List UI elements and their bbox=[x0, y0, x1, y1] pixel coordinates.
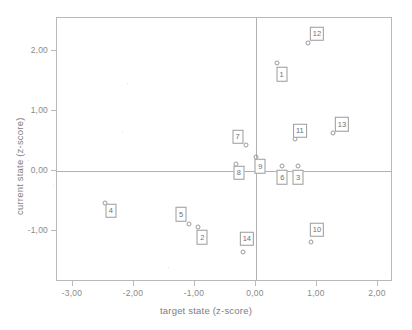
x-tick-mark bbox=[194, 281, 195, 286]
x-tick-mark bbox=[255, 281, 256, 286]
data-point-marker[interactable] bbox=[296, 164, 301, 169]
image-speck bbox=[28, 160, 29, 161]
scatter-chart: 1234567891011121314 -3,00-2,00-1,000,001… bbox=[0, 0, 412, 330]
zero-line-vertical bbox=[256, 18, 257, 280]
y-tick-mark bbox=[51, 50, 56, 51]
y-tick-label: 2,00 bbox=[20, 45, 48, 55]
data-point-marker[interactable] bbox=[308, 239, 313, 244]
data-point-label[interactable]: 2 bbox=[197, 230, 208, 245]
image-speck bbox=[127, 83, 128, 84]
data-point-label[interactable]: 13 bbox=[335, 117, 349, 132]
data-point-marker[interactable] bbox=[280, 164, 285, 169]
image-speck bbox=[53, 185, 54, 186]
data-point-label[interactable]: 3 bbox=[293, 170, 304, 185]
x-tick-label: 1,00 bbox=[307, 288, 324, 298]
zero-line-horizontal bbox=[57, 171, 391, 172]
x-tick-mark bbox=[72, 281, 73, 286]
x-tick-mark bbox=[377, 281, 378, 286]
data-point-label[interactable]: 5 bbox=[175, 207, 186, 222]
data-point-label[interactable]: 1 bbox=[276, 67, 287, 82]
data-point-marker[interactable] bbox=[196, 224, 201, 229]
y-axis-title: current state (z-score) bbox=[14, 117, 25, 215]
x-tick-label: 2,00 bbox=[368, 288, 385, 298]
y-tick-mark bbox=[51, 230, 56, 231]
x-tick-mark bbox=[133, 281, 134, 286]
x-axis-title: target state (z-score) bbox=[0, 305, 412, 316]
data-point-label[interactable]: 4 bbox=[105, 203, 116, 218]
data-point-marker[interactable] bbox=[305, 41, 310, 46]
y-tick-mark bbox=[51, 110, 56, 111]
x-tick-label: -2,00 bbox=[123, 288, 143, 298]
y-tick-label: 1,00 bbox=[20, 105, 48, 115]
x-tick-label: -1,00 bbox=[184, 288, 204, 298]
y-tick-mark bbox=[51, 170, 56, 171]
data-point-marker[interactable] bbox=[241, 250, 246, 255]
x-tick-mark bbox=[316, 281, 317, 286]
data-point-label[interactable]: 8 bbox=[233, 166, 244, 181]
x-tick-label: 0,00 bbox=[246, 288, 263, 298]
data-point-marker[interactable] bbox=[330, 131, 335, 136]
image-speck bbox=[122, 132, 123, 133]
data-point-label[interactable]: 14 bbox=[240, 232, 254, 247]
data-point-label[interactable]: 10 bbox=[310, 223, 324, 238]
data-point-marker[interactable] bbox=[186, 221, 191, 226]
data-point-marker[interactable] bbox=[244, 143, 249, 148]
data-point-label[interactable]: 12 bbox=[310, 26, 324, 41]
y-tick-label: -1,00 bbox=[20, 225, 48, 235]
data-point-label[interactable]: 7 bbox=[232, 130, 243, 145]
data-point-label[interactable]: 6 bbox=[277, 170, 288, 185]
plot-area: 1234567891011121314 bbox=[56, 17, 392, 281]
data-point-label[interactable]: 11 bbox=[293, 124, 307, 139]
image-speck bbox=[385, 273, 386, 274]
data-point-marker[interactable] bbox=[274, 61, 279, 66]
data-point-label[interactable]: 9 bbox=[255, 159, 266, 174]
image-speck bbox=[168, 267, 169, 268]
x-tick-label: -3,00 bbox=[62, 288, 82, 298]
